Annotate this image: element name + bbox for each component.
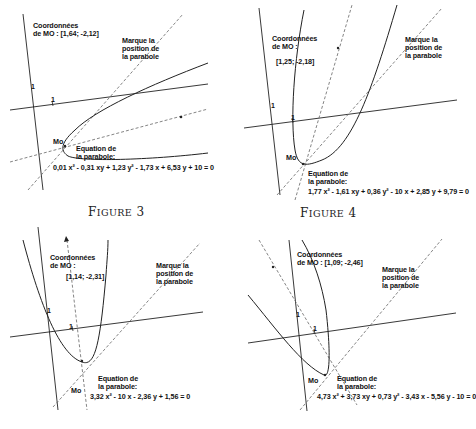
tick-x-label: 1 [313, 325, 317, 332]
marker-label: Marque la position de la parabole [405, 36, 442, 61]
tick-x-label: 1 [51, 96, 55, 103]
parabola-curve [293, 5, 397, 164]
point-label-mo: Mo [286, 154, 296, 162]
marker-point [180, 116, 183, 119]
equation-label: Equation de la parabole: [308, 170, 348, 186]
tick-x-label: 1 [69, 323, 73, 330]
marker-label: Marque la position de la parabole [122, 37, 159, 62]
mo-point [324, 374, 326, 376]
mo-point [302, 163, 304, 165]
coords-value: [1,25; -2,18] [276, 58, 314, 66]
equation-label: Equation de la parabole: [76, 145, 116, 161]
coords-label: Coordonnées de MO : [50, 254, 95, 270]
equation-text: 3,32 x² - 10 x - 2,36 y + 1,56 = 0 [90, 393, 190, 401]
tick-y-label: 1 [47, 307, 51, 314]
tick-x-label: 1 [291, 114, 295, 121]
mo-point [81, 360, 83, 362]
arrow-up-icon [64, 236, 69, 242]
coords-label: Coordonnées de MO : [1,64; -2,12] [33, 22, 99, 38]
point-label-mo: Mo [71, 387, 81, 395]
x-axis [248, 313, 456, 343]
marker-point [272, 266, 274, 268]
x-axis [244, 100, 457, 128]
equation-label: Equation de la parabole: [98, 375, 138, 391]
equation-text: 0,01 x² - 0,31 xy + 1,23 y² - 1,73 x + 6… [53, 164, 214, 172]
x-axis [10, 312, 203, 337]
equation-text: 1,77 x² - 1,61 xy + 0,36 y² - 10 x + 2,8… [308, 188, 469, 196]
marker-point [337, 47, 339, 49]
figure-4: 1 1 Coordonnées de MO : [1,25; -2,18] Ma… [232, 0, 464, 215]
coords-label: Coordonnées de MO : [1,09; -2,46] [297, 251, 363, 267]
coords-value: [1,14; -2,31] [66, 273, 104, 281]
equation-text: 4,73 x² + 3,73 xy + 0,73 y² - 3,43 x - 5… [317, 393, 476, 401]
figure-3: 1 1 Coordonnées de MO : [1,64; -2,12] Ma… [0, 0, 232, 215]
tick-y-label: 1 [296, 311, 300, 318]
figure-6: 1 1 Coordonnées de MO : [1,09; -2,46] Ma… [232, 215, 464, 429]
tick-y-label: 1 [31, 83, 35, 90]
marker-label: Marque la position de la parabole [156, 262, 193, 287]
point-label-mo: Mo [308, 377, 318, 385]
tick-y-label: 1 [271, 102, 275, 109]
y-axis [23, 14, 43, 190]
coords-label: Coordonnées de MO : [272, 35, 317, 51]
marker-label: Marque la position de la parabole [382, 266, 419, 291]
equation-label: Equation de la parabole: [337, 375, 377, 391]
mo-point [64, 145, 66, 147]
point-label-mo: Mo [53, 138, 63, 146]
figure-5: 1 1 Coordonnées de MO : [1,14; -2,31] Ma… [0, 215, 232, 429]
